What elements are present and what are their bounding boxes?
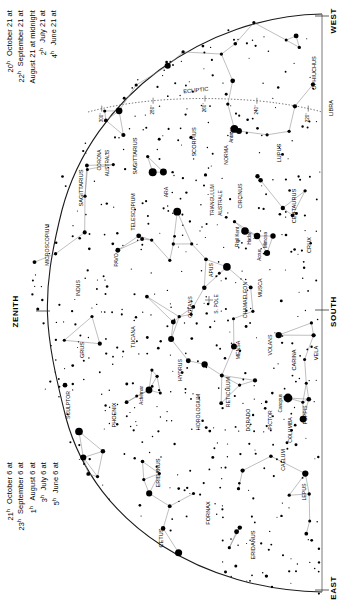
constellation-label: SAGITTARIUS <box>132 137 138 174</box>
star <box>309 562 310 563</box>
date-entry-time: 3h <box>40 495 49 502</box>
star <box>206 367 207 368</box>
star <box>221 508 223 510</box>
star <box>222 539 224 541</box>
star <box>246 543 247 544</box>
star <box>271 392 274 395</box>
constellation-line <box>163 506 170 528</box>
star <box>222 505 223 506</box>
star <box>79 335 81 337</box>
date-entry-hour: 21 <box>6 512 15 520</box>
star <box>227 320 229 322</box>
star <box>284 388 286 390</box>
constellation-label: CAELUM <box>280 449 286 471</box>
star <box>292 375 294 377</box>
star <box>235 113 237 115</box>
date-column-bottom: June 6 at5hJuly 6 at3hAugust 6 at1hSepte… <box>6 462 60 530</box>
star <box>276 332 282 338</box>
named-star <box>254 233 261 240</box>
star <box>253 378 257 382</box>
star <box>149 452 150 453</box>
star <box>58 378 60 380</box>
star <box>75 428 83 436</box>
star <box>193 158 194 159</box>
star <box>115 248 120 253</box>
star <box>186 108 187 109</box>
star-label: Rigil Kent <box>235 226 240 246</box>
star-chart: 300°280°260°240°220° OPHIUCHUSLIBRASCORP… <box>0 0 342 605</box>
star <box>166 325 168 327</box>
star <box>231 343 232 344</box>
star <box>167 290 168 291</box>
star <box>169 529 171 531</box>
star <box>233 220 236 223</box>
star <box>309 121 311 123</box>
constellation-line <box>221 375 222 403</box>
star <box>89 233 91 235</box>
star <box>285 178 287 180</box>
star <box>172 192 174 194</box>
cardinal-east: EAST <box>329 576 338 600</box>
star <box>211 456 214 459</box>
named-star <box>146 387 153 394</box>
star <box>297 563 298 564</box>
cardinal-zenith: ZENITH <box>11 295 20 328</box>
star <box>171 171 173 173</box>
star <box>83 360 85 362</box>
constellation-line <box>170 244 174 260</box>
constellation-line <box>143 462 144 480</box>
star <box>248 490 249 491</box>
star <box>294 407 295 408</box>
date-entry: August 6 at1h <box>29 462 38 513</box>
star <box>211 59 213 61</box>
star <box>134 407 135 408</box>
constellation-line <box>119 85 136 111</box>
star <box>112 356 114 358</box>
star <box>143 129 144 130</box>
star <box>122 350 124 352</box>
star <box>262 208 264 210</box>
star <box>251 574 253 576</box>
star <box>254 385 255 386</box>
date-entry: October 6 at21h <box>6 462 15 520</box>
star <box>173 235 176 238</box>
star <box>104 428 105 429</box>
star <box>201 420 204 423</box>
star-label: Achernar <box>139 386 144 405</box>
date-entry-time: 23h <box>17 519 26 530</box>
star <box>135 395 138 398</box>
star <box>252 497 254 499</box>
star <box>261 185 262 186</box>
star <box>136 233 141 238</box>
star <box>220 373 224 377</box>
constellation-line <box>221 54 232 81</box>
constellation-label: SCORPIUS <box>191 127 197 156</box>
star <box>111 242 114 245</box>
constellation-label: CARINA <box>291 349 297 370</box>
star <box>167 205 168 206</box>
star <box>204 257 208 261</box>
constellation-label: CETUS <box>158 528 164 547</box>
star <box>174 319 175 320</box>
star-label: Antares <box>229 126 234 143</box>
ecliptic-label: ECLIPTIC <box>183 86 209 95</box>
date-entry-text: September 21 at <box>17 10 24 66</box>
star <box>99 371 101 373</box>
star <box>165 63 171 69</box>
star <box>145 127 147 129</box>
constellation-label: CORONA <box>97 149 102 171</box>
star <box>238 430 239 431</box>
date-entry-hour-unit: h <box>28 506 34 509</box>
star <box>256 337 257 338</box>
star <box>203 184 205 186</box>
date-entry-text: October 6 at <box>6 462 13 504</box>
star <box>303 189 306 192</box>
star <box>185 191 187 193</box>
star <box>84 278 86 280</box>
star <box>293 104 297 108</box>
star <box>80 454 86 460</box>
star <box>173 208 181 216</box>
date-entry-time: 1h <box>29 506 38 513</box>
star <box>268 549 270 551</box>
star <box>149 168 157 176</box>
